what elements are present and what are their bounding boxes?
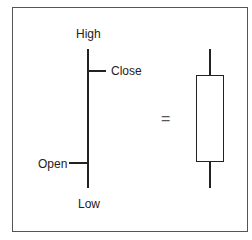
label-low: Low (78, 198, 100, 210)
label-open: Open (38, 158, 67, 170)
lower-wick (209, 161, 211, 188)
open-tick (69, 162, 87, 164)
upper-wick (209, 49, 211, 76)
label-high: High (76, 28, 101, 40)
label-close: Close (111, 65, 142, 77)
candle-body (196, 75, 224, 162)
equals-sign: = (161, 111, 170, 127)
close-tick (88, 70, 106, 72)
